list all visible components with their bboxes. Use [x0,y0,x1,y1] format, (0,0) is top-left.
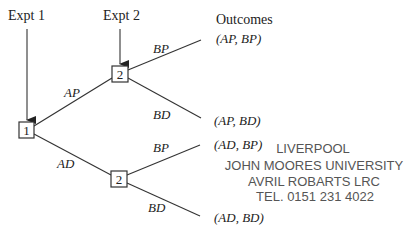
outcome-ap-bp: (AP, BP) [216,31,261,46]
stamp-line-3: AVRIL ROBARTS LRC [248,174,380,189]
branch-ad-label: AD [56,156,75,171]
expt2-label: Expt 2 [103,8,140,23]
outcome-ap-bd: (AP, BD) [214,113,261,128]
node-expt2-lower-label: 2 [116,172,123,187]
upper-branch-bp-label: BP [153,41,169,56]
expt1-label: Expt 1 [8,8,45,23]
upper-branch-bd-label: BD [153,107,171,122]
outcome-ad-bp: (AD, BP) [214,137,262,152]
node-expt1-label: 1 [23,123,30,138]
node-expt1: 1 [19,122,34,138]
node-expt2-upper-label: 2 [117,67,124,82]
branch-ap-label: AP [63,85,80,100]
lower-branch-bp-label: BP [153,140,169,155]
stamp-line-2: JOHN MOORES UNIVERSITY [225,158,404,173]
stamp-line-1: LIVERPOOL [276,141,350,156]
probability-tree-diagram: Expt 1 Expt 2 Outcomes 1 2 2 AP AD BP BD… [0,0,416,233]
lower-branch-bd-label: BD [148,200,166,215]
node-expt2-upper: 2 [112,66,128,82]
outcome-ad-bd: (AD, BD) [214,210,264,225]
outcomes-label: Outcomes [216,12,273,27]
stamp-line-4: TEL. 0151 231 4022 [256,189,374,204]
node-expt2-lower: 2 [111,171,127,187]
